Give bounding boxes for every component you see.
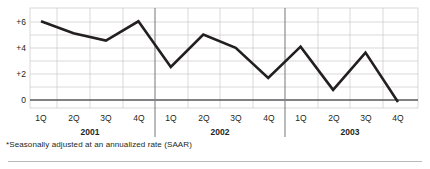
quarter-label-2001-1q: 1Q [35, 113, 47, 123]
year-axis-labels: 2001 2002 2003 [81, 127, 360, 137]
bottom-divider [8, 161, 422, 162]
ytick-label-2: +2 [16, 69, 26, 79]
quarter-label-2001-2q: 2Q [68, 113, 80, 123]
quarter-label-2002-4q: 4Q [263, 113, 275, 123]
chart-footnote: *Seasonally adjusted at an annualized ra… [6, 140, 192, 149]
ytick-label-6: +6 [16, 17, 26, 27]
quarter-axis-labels: 1Q 2Q 3Q 4Q 1Q 2Q 3Q 4Q 1Q 2Q 3Q 4Q [35, 113, 404, 123]
quarter-label-2003-2q: 2Q [328, 113, 340, 123]
quarter-label-2001-3q: 3Q [100, 113, 112, 123]
gdp-growth-line-chart: +6 +4 +2 0 1Q 2Q 3Q 4Q 1Q 2Q 3Q 4Q 1Q 2Q… [0, 0, 430, 140]
chart-figure: +6 +4 +2 0 1Q 2Q 3Q 4Q 1Q 2Q 3Q 4Q 1Q 2Q… [0, 0, 430, 169]
quarter-label-2003-4q: 4Q [392, 113, 404, 123]
quarter-label-2002-2q: 2Q [198, 113, 210, 123]
quarter-label-2003-3q: 3Q [360, 113, 372, 123]
year-label-2002: 2002 [211, 127, 230, 137]
ytick-label-0: 0 [21, 95, 26, 105]
year-label-2003: 2003 [341, 127, 360, 137]
quarter-label-2002-1q: 1Q [165, 113, 177, 123]
quarter-label-2002-3q: 3Q [230, 113, 242, 123]
quarter-label-2003-1q: 1Q [295, 113, 307, 123]
year-label-2001: 2001 [81, 127, 100, 137]
quarter-label-2001-4q: 4Q [133, 113, 145, 123]
ytick-label-4: +4 [16, 43, 26, 53]
